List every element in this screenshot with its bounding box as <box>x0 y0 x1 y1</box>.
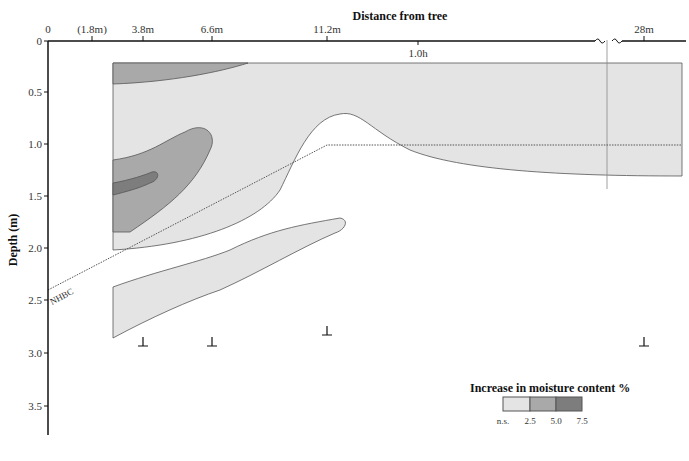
svg-text:2.5: 2.5 <box>524 416 536 426</box>
borehole-marker-icon <box>207 337 217 346</box>
height-annotation: 1.0h <box>408 47 428 59</box>
svg-text:(1.8m): (1.8m) <box>77 23 107 36</box>
moisture-contour-diagram: NHBC Distance from tree Depth (m) 0 (1.8… <box>0 0 689 461</box>
svg-text:3.8m: 3.8m <box>132 23 155 35</box>
svg-text:0: 0 <box>37 35 43 47</box>
svg-text:28m: 28m <box>634 23 654 35</box>
svg-text:11.2m: 11.2m <box>313 23 341 35</box>
legend-swatch-2-5 <box>530 397 556 411</box>
svg-text:n.s.: n.s. <box>497 416 510 426</box>
svg-text:5.0: 5.0 <box>550 416 562 426</box>
legend-swatch-5-0 <box>556 397 582 411</box>
nhbc-label: NHBC <box>48 286 75 307</box>
svg-text:6.6m: 6.6m <box>201 23 224 35</box>
svg-text:0: 0 <box>45 23 51 35</box>
svg-text:0.5: 0.5 <box>28 86 42 98</box>
legend-title: Increase in moisture content % <box>470 381 630 395</box>
y-axis-title: Depth (m) <box>6 214 20 266</box>
borehole-marker-icon <box>322 326 332 335</box>
borehole-marker-icon <box>639 337 649 346</box>
svg-text:1.0: 1.0 <box>28 138 42 150</box>
svg-text:1.5: 1.5 <box>28 190 42 202</box>
borehole-marker-icon <box>138 337 148 346</box>
legend-swatch-ns <box>503 397 530 411</box>
svg-text:3.5: 3.5 <box>28 400 42 412</box>
svg-text:3.0: 3.0 <box>28 347 42 359</box>
x-axis-title: Distance from tree <box>353 9 449 23</box>
borehole-markers <box>138 326 649 346</box>
axis-break-icon <box>612 39 622 43</box>
svg-text:2.0: 2.0 <box>28 242 42 254</box>
legend: Increase in moisture content % n.s. 2.5 … <box>470 381 630 426</box>
axis-break-icon <box>595 39 605 43</box>
svg-text:2.5: 2.5 <box>28 294 42 306</box>
y-ticks: 0 0.5 1.0 1.5 2.0 2.5 3.0 3.5 <box>28 35 48 412</box>
svg-text:7.5: 7.5 <box>576 416 588 426</box>
